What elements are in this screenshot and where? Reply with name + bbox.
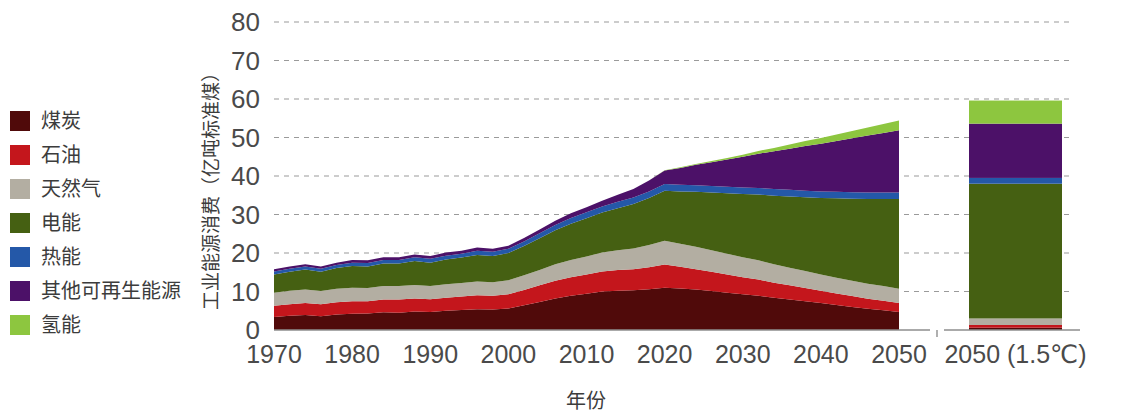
y-tick-labels: 01020304050607080 <box>231 7 260 345</box>
scenario-bar-segment-1 <box>969 325 1062 328</box>
y-tick-70: 70 <box>231 46 260 76</box>
x-tick-2050: 2050 <box>871 340 927 368</box>
energy-consumption-stacked-area-chart: 01020304050607080 1970198019902000201020… <box>0 0 1132 416</box>
y-tick-20: 20 <box>231 238 260 268</box>
x-tick-1990: 1990 <box>402 340 458 368</box>
y-tick-40: 40 <box>231 161 260 191</box>
x-tick-1970: 1970 <box>246 340 302 368</box>
x-tick-2020: 2020 <box>637 340 693 368</box>
x-tick-2000: 2000 <box>481 340 537 368</box>
y-axis-title: 工业能源消费（亿吨标准煤） <box>201 63 222 310</box>
x-tick-scenario: 2050 (1.5℃) <box>944 340 1086 368</box>
scenario-bar-segment-6 <box>969 101 1062 124</box>
scenario-bar <box>969 101 1062 330</box>
x-tick-labels: 1970198019902000201020202030204020502050… <box>246 340 1086 368</box>
stacked-areas <box>274 121 899 330</box>
y-tick-50: 50 <box>231 123 260 153</box>
x-axis <box>274 330 1080 337</box>
y-tick-30: 30 <box>231 200 260 230</box>
scenario-bar-segment-2 <box>969 318 1062 325</box>
x-tick-2040: 2040 <box>793 340 849 368</box>
y-tick-10: 10 <box>231 277 260 307</box>
scenario-bar-segment-5 <box>969 124 1062 178</box>
x-tick-1980: 1980 <box>324 340 380 368</box>
x-tick-2010: 2010 <box>559 340 615 368</box>
scenario-bar-segment-4 <box>969 178 1062 184</box>
y-tick-80: 80 <box>231 7 260 37</box>
chart-page: 煤炭石油天然气电能热能其他可再生能源氢能 01020304050607080 1… <box>0 0 1132 416</box>
x-tick-2030: 2030 <box>715 340 771 368</box>
x-axis-title: 年份 <box>566 390 606 412</box>
y-tick-60: 60 <box>231 84 260 114</box>
scenario-bar-segment-3 <box>969 184 1062 319</box>
chart-area: 01020304050607080 1970198019902000201020… <box>0 0 1132 416</box>
